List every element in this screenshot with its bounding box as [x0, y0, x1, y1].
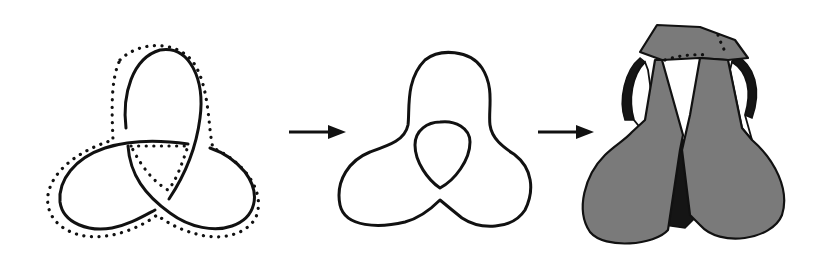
outer-seifert-circle: [339, 52, 531, 226]
inner-seifert-circle: [415, 122, 470, 188]
arrow-right-icon: [538, 125, 594, 139]
trefoil-knot-figure: [48, 46, 259, 237]
right-lobe: [682, 58, 784, 239]
seifert-circles-figure: [339, 52, 531, 226]
arrow-right-icon: [289, 125, 346, 139]
seifert-surface-figure: [583, 25, 784, 244]
diagram-stage: Trefoil knot to Seifert circles to Seife…: [0, 0, 831, 259]
